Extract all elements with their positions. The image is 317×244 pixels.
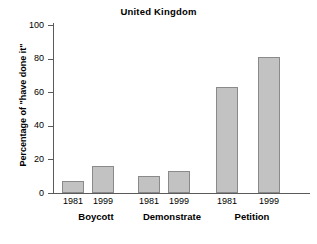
y-axis-line: [53, 23, 54, 194]
y-tick-mark: [48, 193, 53, 194]
y-tick-label: 60: [0, 88, 44, 97]
x-tick-label-demonstrate-1999: 1999: [163, 196, 195, 206]
bar-boycott-1999: [92, 166, 114, 193]
bar-chart: United Kingdom Percentage of "have done …: [0, 0, 317, 244]
x-tick-label-petition-1999: 1999: [253, 196, 285, 206]
y-tick-label: 0: [0, 189, 44, 198]
y-tick-mark: [48, 25, 53, 26]
x-tick-label-boycott-1981: 1981: [57, 196, 89, 206]
y-tick-label: 100: [0, 21, 44, 30]
y-tick-mark: [48, 92, 53, 93]
chart-title: United Kingdom: [0, 6, 317, 17]
x-tick-label-petition-1981: 1981: [211, 196, 243, 206]
bar-petition-1981: [216, 87, 238, 193]
bar-demonstrate-1999: [168, 171, 190, 193]
y-tick-label: 40: [0, 121, 44, 130]
bar-demonstrate-1981: [138, 176, 160, 193]
y-tick-mark: [48, 126, 53, 127]
y-tick-mark: [48, 59, 53, 60]
y-tick-label: 20: [0, 155, 44, 164]
y-axis-label: Percentage of "have done it": [18, 20, 28, 190]
x-tick-label-demonstrate-1981: 1981: [133, 196, 165, 206]
y-tick-mark: [48, 159, 53, 160]
x-axis-line: [53, 193, 310, 194]
bar-petition-1999: [258, 57, 280, 193]
bar-boycott-1981: [62, 181, 84, 193]
group-label-petition: Petition: [202, 211, 302, 222]
y-tick-label: 80: [0, 54, 44, 63]
x-tick-label-boycott-1999: 1999: [87, 196, 119, 206]
